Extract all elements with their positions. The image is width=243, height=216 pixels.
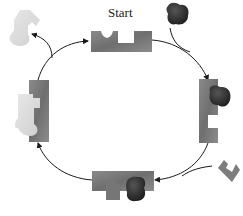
enzyme-right (199, 79, 231, 143)
enzyme-bottom (92, 171, 154, 201)
enzyme-left (15, 80, 49, 142)
medium-substrate-input (218, 160, 240, 182)
dark-substrate-input (167, 3, 189, 25)
light-product-output (10, 10, 40, 46)
enzyme-top (91, 31, 152, 52)
catalytic-cycle-diagram: Start (0, 0, 243, 216)
cycle-graphic (0, 0, 243, 216)
